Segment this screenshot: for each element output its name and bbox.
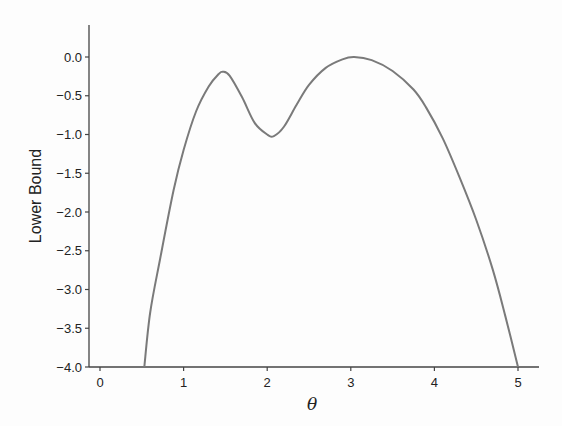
x-tick-label: 3 [347,375,354,390]
y-ticks: 0.0−0.5−1.0−1.5−2.0−2.5−3.0−3.5−4.0 [56,50,89,375]
x-tick-label: 1 [180,375,187,390]
y-tick-label: −1.5 [56,166,82,181]
y-tick-label: −0.5 [56,88,82,103]
x-ticks: 012345 [96,367,521,390]
y-axis-label: Lower Bound [27,149,44,243]
lower-bound-curve [144,57,518,367]
y-tick-label: −2.5 [56,243,82,258]
y-tick-label: −4.0 [56,360,82,375]
x-tick-label: 0 [96,375,103,390]
x-tick-label: 4 [431,375,438,390]
axes [89,25,539,367]
x-tick-label: 5 [514,375,521,390]
lower-bound-chart: 0.0−0.5−1.0−1.5−2.0−2.5−3.0−3.5−4.0 0123… [0,0,562,426]
x-axis-label: θ [307,394,317,414]
y-tick-label: 0.0 [64,50,82,65]
y-tick-label: −1.0 [56,127,82,142]
x-tick-label: 2 [264,375,271,390]
y-tick-label: −3.0 [56,282,82,297]
y-tick-label: −2.0 [56,205,82,220]
y-tick-label: −3.5 [56,321,82,336]
